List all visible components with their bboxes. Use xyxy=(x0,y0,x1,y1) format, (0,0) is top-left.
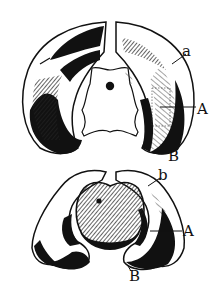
bottom-center-dot xyxy=(96,198,101,203)
top-view xyxy=(23,22,196,155)
top-center-dot xyxy=(106,82,114,90)
label-bottom-A: A xyxy=(183,224,194,239)
label-bottom-b: b xyxy=(158,168,168,183)
label-top-a: a xyxy=(182,44,191,59)
bottom-center-body xyxy=(76,183,144,247)
label-top-A: A xyxy=(197,102,208,117)
label-bottom-B: B xyxy=(129,269,140,284)
label-top-B: B xyxy=(168,149,179,164)
bottom-view xyxy=(32,171,184,271)
